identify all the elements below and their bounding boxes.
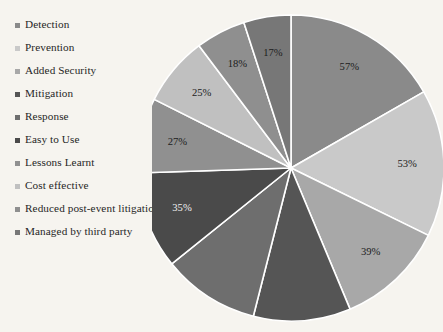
legend-item[interactable]: Response [0,110,172,123]
pie-slice-label: 57% [340,61,360,72]
legend-item[interactable]: Detection [0,18,172,31]
legend-item[interactable]: Easy to Use [0,133,172,146]
legend-item-label: Managed by third party [25,225,133,238]
legend-color-swatch [15,207,20,212]
pie-slice-label: 27% [168,136,188,147]
pie-slice-label: 17% [263,47,283,58]
legend-color-swatch [15,92,20,97]
legend-item-label: Cost effective [25,179,89,192]
legend-color-swatch [15,46,20,51]
legend-item-label: Prevention [25,41,74,54]
legend-item-label: Reduced post-event litigation [25,202,160,215]
legend-item[interactable]: Reduced post-event litigation [0,202,172,215]
pie-chart-figure: DetectionPreventionAdded SecurityMitigat… [0,0,443,332]
legend-color-swatch [15,115,20,120]
legend-item[interactable]: Lessons Learnt [0,156,172,169]
pie-slice-label: 25% [192,87,212,98]
legend-color-swatch [15,69,20,74]
legend-item[interactable]: Added Security [0,64,172,77]
legend-item-label: Lessons Learnt [25,156,94,169]
pie-slice-label: 53% [397,158,417,169]
legend-item[interactable]: Prevention [0,41,172,54]
legend-color-swatch [15,230,20,235]
legend-item[interactable]: Managed by third party [0,225,172,238]
legend-item-label: Mitigation [25,87,73,100]
pie-slice-label: 35% [172,202,192,213]
legend-color-swatch [15,184,20,189]
legend-item-label: Easy to Use [25,133,80,146]
legend-color-swatch [15,23,20,28]
legend-item[interactable]: Cost effective [0,179,172,192]
legend-item-label: Added Security [25,64,96,77]
legend-item-label: Response [25,110,69,123]
legend-item[interactable]: Mitigation [0,87,172,100]
legend-item-label: Detection [25,18,69,31]
pie-slice-label: 39% [361,246,381,257]
legend-color-swatch [15,161,20,166]
pie-svg: 57%53%39%35%27%25%18%17% [152,0,443,332]
legend-color-swatch [15,138,20,143]
chart-legend: DetectionPreventionAdded SecurityMitigat… [0,0,172,332]
pie-area: 57%53%39%35%27%25%18%17% [152,0,443,332]
pie-slice-label: 18% [228,58,248,69]
